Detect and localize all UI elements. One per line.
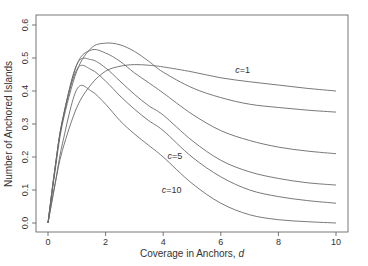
x-axis: 0246810 [45, 232, 341, 247]
chart-container: 0.00.10.20.30.40.50.6 0246810 c=1c=5c=10… [0, 0, 368, 266]
curve-label: c=10 [162, 185, 182, 195]
series-line-c-3 [48, 49, 336, 223]
curve-label: c=1 [235, 65, 250, 75]
x-axis-variable: d [238, 248, 244, 259]
y-tick-label: 0.6 [20, 19, 30, 32]
x-tick-label: 0 [45, 237, 50, 247]
x-tick-label: 8 [276, 237, 281, 247]
y-tick-label: 0.4 [20, 85, 30, 98]
series-line-c-10 [48, 85, 336, 223]
y-axis-label: Number of Anchored Islands [3, 61, 14, 187]
x-tick-label: 4 [161, 237, 166, 247]
y-tick-label: 0.0 [20, 217, 30, 230]
y-tick-label: 0.3 [20, 118, 30, 131]
series-lines [48, 43, 336, 223]
x-tick-label: 2 [103, 237, 108, 247]
y-tick-label: 0.5 [20, 52, 30, 65]
series-line-c-7 [48, 65, 336, 223]
y-tick-label: 0.2 [20, 151, 30, 164]
x-tick-label: 10 [331, 237, 341, 247]
curve-labels: c=1c=5c=10 [162, 65, 250, 195]
curve-label: c=5 [168, 151, 183, 161]
series-line-c-5 [48, 58, 336, 223]
x-axis-label: Coverage in Anchors, d [140, 248, 244, 259]
y-axis: 0.00.10.20.30.40.50.6 [20, 19, 36, 230]
line-chart: 0.00.10.20.30.40.50.6 0246810 c=1c=5c=10… [0, 0, 368, 266]
x-tick-label: 6 [218, 237, 223, 247]
y-tick-label: 0.1 [20, 184, 30, 197]
